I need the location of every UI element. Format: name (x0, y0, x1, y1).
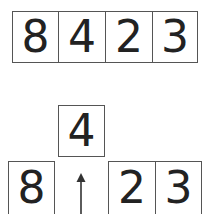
bottom-right-cell-0: 2 (108, 161, 156, 214)
top-cell-2: 2 (105, 11, 153, 63)
top-cell-1: 4 (58, 11, 106, 63)
lifted-cell: 4 (58, 105, 105, 157)
bottom-left-cell-0: 8 (8, 161, 55, 214)
bottom-right-cell-1: 3 (155, 161, 202, 214)
top-cell-3: 3 (152, 11, 198, 63)
up-arrow-icon (76, 172, 86, 214)
top-cell-0: 8 (12, 11, 59, 63)
